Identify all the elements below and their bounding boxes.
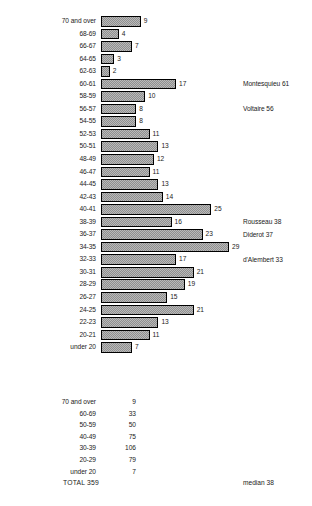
row-age-label: 20-21 xyxy=(0,329,96,342)
row-age-label: 70 and over xyxy=(0,15,96,28)
bar xyxy=(101,79,176,90)
summary-row-label: 40-49 xyxy=(0,431,96,443)
bar xyxy=(101,192,163,203)
summary-row: 50-5950 xyxy=(0,419,312,431)
row-age-label: 30-31 xyxy=(0,266,96,279)
bar-value-label: 13 xyxy=(161,141,168,152)
bar xyxy=(101,104,136,115)
bar-wrapper: 29 xyxy=(101,241,239,254)
pyramid-row: 50-5113 xyxy=(0,140,312,153)
bar xyxy=(101,29,119,40)
bar xyxy=(101,167,150,178)
pyramid-row: 68-694 xyxy=(0,28,312,41)
bar xyxy=(101,305,194,316)
bar-wrapper: 14 xyxy=(101,191,173,204)
row-age-label: 40-41 xyxy=(0,203,96,216)
bar-wrapper: 7 xyxy=(101,40,139,53)
bar-value-label: 9 xyxy=(144,16,148,27)
bar-value-label: 16 xyxy=(175,217,182,228)
bar-value-label: 23 xyxy=(206,229,213,240)
row-age-label: 58-59 xyxy=(0,90,96,103)
bar-wrapper: 17 xyxy=(101,78,186,91)
row-age-label: 46-47 xyxy=(0,166,96,179)
bar-wrapper: 11 xyxy=(101,128,159,141)
bar-value-label: 21 xyxy=(197,267,204,278)
bar-value-label: 7 xyxy=(135,41,139,52)
pyramid-row: 34-3529 xyxy=(0,241,312,254)
summary-row: 30-39106 xyxy=(0,442,312,454)
bar-value-label: 25 xyxy=(214,204,221,215)
summary-row-value: 75 xyxy=(104,431,136,443)
bar xyxy=(101,141,158,152)
bar-wrapper: 7 xyxy=(101,341,139,354)
annotation-label: Rousseau 38 xyxy=(243,218,281,225)
bar-wrapper: 23 xyxy=(101,228,213,241)
pyramid-row: 44-4513 xyxy=(0,178,312,191)
bar xyxy=(101,242,229,253)
bar-wrapper: 11 xyxy=(101,329,159,342)
bar xyxy=(101,254,176,265)
bar-value-label: 7 xyxy=(135,342,139,353)
median-label: median 38 xyxy=(243,479,274,486)
bar-wrapper: 2 xyxy=(101,65,116,78)
bar-value-label: 21 xyxy=(197,305,204,316)
pyramid-row: 46-4711 xyxy=(0,166,312,179)
bar-wrapper: 12 xyxy=(101,153,164,166)
bar-value-label: 4 xyxy=(122,29,126,40)
bar-value-label: 13 xyxy=(161,179,168,190)
pyramid-row: 62-632 xyxy=(0,65,312,78)
bar-wrapper: 9 xyxy=(101,15,147,28)
bar-wrapper: 21 xyxy=(101,304,204,317)
bar xyxy=(101,317,158,328)
summary-row: under 207 xyxy=(0,466,312,478)
bar-value-label: 13 xyxy=(161,317,168,328)
bar-value-label: 17 xyxy=(179,254,186,265)
summary-row-value: 106 xyxy=(104,442,136,454)
summary-row-label: 20-29 xyxy=(0,454,96,466)
row-age-label: 28-29 xyxy=(0,278,96,291)
bar xyxy=(101,179,158,190)
pyramid-row: 54-558 xyxy=(0,115,312,128)
bar-value-label: 10 xyxy=(148,91,155,102)
total-label: TOTAL 359 xyxy=(63,479,99,486)
pyramid-row: 70 and over9 xyxy=(0,15,312,28)
row-age-label: 68-69 xyxy=(0,28,96,41)
bar xyxy=(101,267,194,278)
row-age-label: 38-39 xyxy=(0,216,96,229)
row-age-label: 56-57 xyxy=(0,103,96,116)
row-age-label: 48-49 xyxy=(0,153,96,166)
summary-row-value: 33 xyxy=(104,408,136,420)
bar xyxy=(101,16,141,27)
summary-row-value: 50 xyxy=(104,419,136,431)
summary-row: 40-4975 xyxy=(0,431,312,443)
bar xyxy=(101,204,211,215)
bar-value-label: 17 xyxy=(179,79,186,90)
bar xyxy=(101,66,110,77)
bar xyxy=(101,217,172,228)
bar-wrapper: 10 xyxy=(101,90,155,103)
bar-wrapper: 3 xyxy=(101,53,121,66)
bar xyxy=(101,292,167,303)
row-age-label: 26-27 xyxy=(0,291,96,304)
pyramid-row: under 207 xyxy=(0,341,312,354)
bar-wrapper: 13 xyxy=(101,140,169,153)
row-age-label: 50-51 xyxy=(0,140,96,153)
bar xyxy=(101,91,145,102)
pyramid-row: 20-2111 xyxy=(0,329,312,342)
pyramid-bars: 70 and over968-69466-67764-65362-63260-6… xyxy=(0,15,312,354)
pyramid-row: 22-2313 xyxy=(0,316,312,329)
bar-wrapper: 13 xyxy=(101,316,169,329)
bar xyxy=(101,279,185,290)
row-age-label: 54-55 xyxy=(0,115,96,128)
bar-wrapper: 17 xyxy=(101,253,186,266)
row-age-label: 44-45 xyxy=(0,178,96,191)
summary-row-label: 50-59 xyxy=(0,419,96,431)
row-age-label: 32-33 xyxy=(0,253,96,266)
pyramid-row: 52-5311 xyxy=(0,128,312,141)
row-age-label: 34-35 xyxy=(0,241,96,254)
summary-row-label: 60-69 xyxy=(0,408,96,420)
age-distribution-chart: 70 and over968-69466-67764-65362-63260-6… xyxy=(0,0,312,506)
bar-value-label: 8 xyxy=(139,104,143,115)
summary-row-value: 9 xyxy=(104,396,136,408)
row-age-label: 52-53 xyxy=(0,128,96,141)
